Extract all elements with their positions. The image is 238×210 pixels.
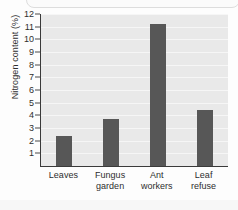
gridline bbox=[41, 52, 228, 53]
y-tick-label: 12 bbox=[14, 10, 34, 19]
y-axis-tick-labels: 121110987654321 bbox=[14, 14, 34, 166]
bar[interactable] bbox=[197, 110, 213, 166]
y-tick-label: 7 bbox=[14, 73, 34, 82]
gridline bbox=[41, 14, 228, 15]
bar[interactable] bbox=[150, 24, 166, 166]
y-tick-label: 8 bbox=[14, 60, 34, 69]
bar-chart-figure: Nitrogen content (%) 121110987654321 Lea… bbox=[0, 0, 238, 210]
gridline bbox=[41, 65, 228, 66]
x-axis-label-line: Leaf bbox=[173, 170, 235, 181]
gridline bbox=[41, 103, 228, 104]
y-tick-label: 3 bbox=[14, 124, 34, 133]
bar[interactable] bbox=[56, 136, 72, 166]
gridline bbox=[41, 77, 228, 78]
y-tick-label: 11 bbox=[14, 22, 34, 31]
y-tick-label: 5 bbox=[14, 98, 34, 107]
x-axis-category-labels: LeavesFungusgardenAntworkersLeafrefuse bbox=[40, 170, 228, 204]
x-axis-label: Leafrefuse bbox=[173, 170, 235, 192]
gridline bbox=[41, 27, 228, 28]
gridline bbox=[41, 39, 228, 40]
y-tick-label: 1 bbox=[14, 149, 34, 158]
gridline bbox=[41, 90, 228, 91]
plot-area bbox=[41, 14, 228, 166]
y-tick-label: 6 bbox=[14, 86, 34, 95]
x-axis-label-line: refuse bbox=[173, 181, 235, 192]
bar[interactable] bbox=[103, 119, 119, 166]
y-tick-label: 9 bbox=[14, 48, 34, 57]
y-tick-label: 2 bbox=[14, 136, 34, 145]
x-axis-line bbox=[40, 166, 228, 167]
y-tick-label: 4 bbox=[14, 111, 34, 120]
y-tick-label: 10 bbox=[14, 35, 34, 44]
